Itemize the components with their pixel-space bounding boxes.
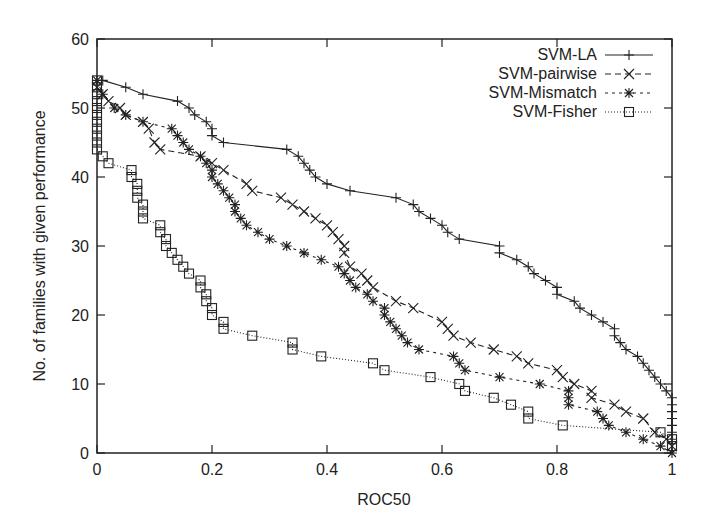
data-point-svm-mismatch bbox=[460, 365, 470, 375]
data-point-svm-fisher bbox=[288, 338, 297, 347]
y-tick-label: 10 bbox=[71, 376, 89, 393]
data-point-svm-la bbox=[282, 144, 292, 154]
legend-label: SVM-pairwise bbox=[498, 65, 597, 82]
data-point-svm-pairwise bbox=[443, 324, 453, 334]
data-point-svm-fisher bbox=[196, 276, 205, 285]
data-point-svm-mismatch bbox=[316, 255, 326, 265]
data-point-svm-mismatch bbox=[242, 220, 252, 230]
x-tick-label: 1 bbox=[668, 461, 677, 478]
data-point-svm-fisher bbox=[524, 414, 533, 423]
data-point-svm-mismatch bbox=[121, 110, 131, 120]
data-point-svm-pairwise bbox=[328, 227, 338, 237]
data-point-svm-pairwise bbox=[621, 407, 631, 417]
data-point-svm-mismatch bbox=[334, 262, 344, 272]
data-point-svm-mismatch bbox=[98, 89, 108, 99]
data-point-svm-pairwise bbox=[558, 372, 568, 382]
data-point-svm-pairwise bbox=[345, 262, 355, 272]
data-point-svm-mismatch bbox=[178, 138, 188, 148]
data-point-svm-mismatch bbox=[667, 448, 677, 458]
data-point-svm-la bbox=[454, 234, 464, 244]
data-point-svm-fisher bbox=[156, 228, 165, 237]
data-point-svm-pairwise bbox=[311, 213, 321, 223]
data-point-svm-pairwise bbox=[610, 400, 620, 410]
data-point-svm-mismatch bbox=[397, 331, 407, 341]
series-layer bbox=[92, 75, 677, 458]
data-point-svm-la bbox=[598, 317, 608, 327]
x-tick-label: 0.4 bbox=[316, 461, 338, 478]
legend-label: SVM-Mismatch bbox=[489, 84, 597, 101]
data-point-svm-mismatch bbox=[656, 441, 666, 451]
data-point-svm-fisher bbox=[133, 193, 142, 202]
data-point-svm-mismatch bbox=[230, 207, 240, 217]
y-tick-label: 20 bbox=[71, 307, 89, 324]
y-tick-label: 30 bbox=[71, 238, 89, 255]
data-point-svm-pairwise bbox=[339, 248, 349, 258]
y-tick-label: 40 bbox=[71, 169, 89, 186]
data-point-svm-pairwise bbox=[299, 207, 309, 217]
data-point-svm-mismatch bbox=[495, 372, 505, 382]
data-point-svm-fisher bbox=[369, 359, 378, 368]
data-point-svm-la bbox=[391, 193, 401, 203]
data-point-svm-mismatch bbox=[109, 103, 119, 113]
data-point-svm-mismatch bbox=[265, 234, 275, 244]
data-point-svm-pairwise bbox=[449, 331, 459, 341]
data-point-svm-fisher bbox=[208, 311, 217, 320]
legend-item-svm-mismatch: SVM-Mismatch bbox=[489, 84, 653, 101]
data-point-svm-la bbox=[173, 96, 183, 106]
data-point-svm-mismatch bbox=[403, 338, 413, 348]
data-point-svm-la bbox=[138, 89, 148, 99]
data-point-svm-mismatch bbox=[196, 151, 206, 161]
data-point-svm-mismatch bbox=[236, 213, 246, 223]
data-point-svm-mismatch bbox=[454, 358, 464, 368]
legend-item-svm-pairwise: SVM-pairwise bbox=[498, 65, 653, 82]
data-point-svm-pairwise bbox=[219, 165, 229, 175]
data-point-svm-pairwise bbox=[357, 269, 367, 279]
data-point-svm-la bbox=[322, 179, 332, 189]
data-point-svm-pairwise bbox=[247, 186, 257, 196]
series-svm-fisher bbox=[93, 76, 677, 451]
data-point-svm-pairwise bbox=[242, 179, 252, 189]
data-point-svm-mismatch bbox=[385, 317, 395, 327]
data-point-svm-mismatch bbox=[345, 276, 355, 286]
data-point-svm-fisher bbox=[524, 407, 533, 416]
data-point-svm-mismatch bbox=[598, 414, 608, 424]
data-point-svm-mismatch bbox=[213, 179, 223, 189]
data-point-svm-fisher bbox=[133, 186, 142, 195]
data-point-svm-mismatch bbox=[184, 144, 194, 154]
data-point-svm-mismatch bbox=[224, 193, 234, 203]
y-tick-label: 60 bbox=[71, 31, 89, 48]
chart: 00.20.40.60.810102030405060 ROC50 No. of… bbox=[0, 0, 712, 530]
legend-marker bbox=[624, 50, 634, 60]
data-point-svm-fisher bbox=[139, 200, 148, 209]
data-point-svm-mismatch bbox=[449, 351, 459, 361]
data-point-svm-pairwise bbox=[150, 138, 160, 148]
data-point-svm-mismatch bbox=[282, 241, 292, 251]
data-point-svm-pairwise bbox=[334, 234, 344, 244]
data-point-svm-mismatch bbox=[299, 248, 309, 258]
series-line-svm-la bbox=[103, 80, 672, 439]
legend-marker bbox=[624, 88, 634, 98]
data-point-svm-la bbox=[207, 131, 217, 141]
y-tick-label: 0 bbox=[80, 445, 89, 462]
data-point-svm-pairwise bbox=[569, 379, 579, 389]
data-point-svm-mismatch bbox=[368, 296, 378, 306]
data-point-svm-la bbox=[587, 310, 597, 320]
x-axis-label: ROC50 bbox=[357, 491, 410, 508]
data-point-svm-la bbox=[345, 186, 355, 196]
data-point-svm-pairwise bbox=[276, 193, 286, 203]
y-axis-label: No. of families with given performance bbox=[31, 110, 48, 381]
data-point-svm-la bbox=[495, 248, 505, 258]
data-point-svm-mismatch bbox=[167, 124, 177, 134]
data-point-svm-fisher bbox=[380, 366, 389, 375]
data-point-svm-mismatch bbox=[138, 117, 148, 127]
data-point-svm-mismatch bbox=[380, 310, 390, 320]
data-point-svm-mismatch bbox=[391, 324, 401, 334]
series-line-svm-fisher bbox=[97, 80, 672, 446]
data-point-svm-pairwise bbox=[466, 338, 476, 348]
data-point-svm-la bbox=[512, 255, 522, 265]
data-point-svm-mismatch bbox=[253, 227, 263, 237]
data-point-svm-mismatch bbox=[638, 434, 648, 444]
data-point-svm-pairwise bbox=[368, 282, 378, 292]
data-point-svm-pairwise bbox=[144, 124, 154, 134]
data-point-svm-mismatch bbox=[339, 269, 349, 279]
